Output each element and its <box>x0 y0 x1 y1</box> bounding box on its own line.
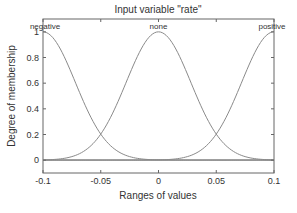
x-tick-label: 0.05 <box>207 176 225 186</box>
chart-title: Input variable "rate" <box>114 4 202 15</box>
plot-area <box>43 19 274 173</box>
x-axis-ticks: -0.1-0.0500.050.1 <box>35 19 280 186</box>
x-tick-label: 0 <box>156 176 161 186</box>
series-label-negative: negative <box>30 22 61 31</box>
membership-curves <box>43 32 274 160</box>
membership-function-chart: Input variable "rate" -0.1-0.0500.050.1 … <box>0 0 297 213</box>
curve-positive <box>43 32 274 160</box>
y-tick-label: 0 <box>34 155 39 165</box>
series-label-none: none <box>150 22 168 31</box>
y-axis-ticks: 00.20.40.60.81 <box>26 27 274 165</box>
y-tick-label: 0.8 <box>26 53 39 63</box>
y-tick-label: 0.4 <box>26 104 39 114</box>
x-axis-label: Ranges of values <box>119 190 196 201</box>
y-axis-label: Degree of membership <box>6 45 17 147</box>
curve-negative <box>43 32 274 160</box>
curve-none <box>43 32 274 160</box>
y-tick-label: 0.6 <box>26 78 39 88</box>
x-tick-label: -0.05 <box>90 176 111 186</box>
y-tick-label: 0.2 <box>26 130 39 140</box>
series-labels: negativenonepositive <box>30 22 286 31</box>
x-tick-label: 0.1 <box>268 176 281 186</box>
series-label-positive: positive <box>258 22 286 31</box>
x-tick-label: -0.1 <box>35 176 51 186</box>
